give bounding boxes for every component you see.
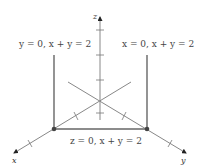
point-y-intercept (145, 127, 150, 132)
coordinate-diagram: z x y y = 0, x + y = 2 x = 0, x + y = 2 … (0, 0, 201, 167)
x-axis-label: x (12, 156, 17, 165)
bottom-edge-label: z = 0, x + y = 2 (70, 136, 142, 146)
z-axis-label: z (92, 12, 98, 21)
point-x-intercept (52, 127, 57, 132)
left-edge-label: y = 0, x + y = 2 (18, 39, 91, 49)
y-axis-label: y (180, 156, 186, 165)
right-edge-label: x = 0, x + y = 2 (122, 39, 194, 49)
